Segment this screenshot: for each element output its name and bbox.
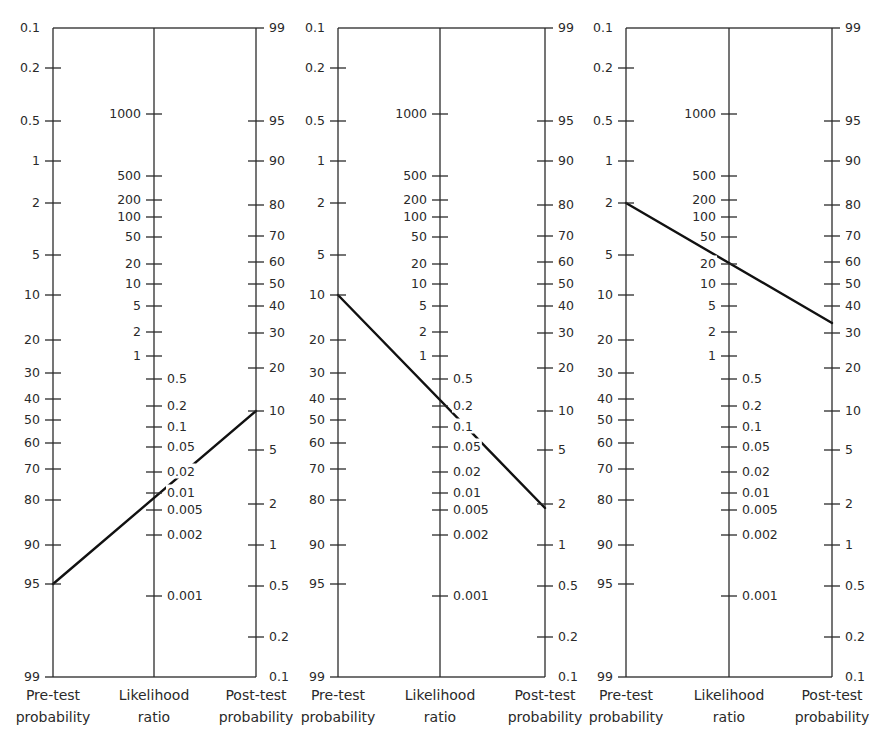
lr-tick-label: 0.2 <box>453 398 473 413</box>
pre-test-tick-label: 70 <box>597 461 613 476</box>
lr-tick-label: 0.001 <box>167 588 203 603</box>
pre-test-tick-label: 5 <box>605 247 613 262</box>
post-test-tick-label: 2 <box>558 496 566 511</box>
post-test-tick-label: 70 <box>845 228 861 243</box>
post-test-tick-label: 50 <box>558 276 574 291</box>
post-test-tick-label: 2 <box>269 496 277 511</box>
pre-test-tick-label: 2 <box>32 195 40 210</box>
likelihood-ratio-title-line1: Likelihood <box>405 687 476 703</box>
lr-tick-label: 50 <box>411 229 427 244</box>
pre-test-tick-label: 50 <box>309 412 325 427</box>
post-test-tick-label: 1 <box>845 537 853 552</box>
pre-test-tick-label: 1 <box>32 153 40 168</box>
post-test-tick-label: 1 <box>558 537 566 552</box>
lr-tick-label: 1 <box>708 348 716 363</box>
lr-tick-label: 0.005 <box>453 502 489 517</box>
pre-test-tick-label: 99 <box>24 669 40 684</box>
post-test-tick-label: 0.5 <box>558 578 578 593</box>
post-test-tick-label: 90 <box>845 153 861 168</box>
lr-tick-label: 0.002 <box>453 527 489 542</box>
likelihood-ratio-title-line1: Likelihood <box>694 687 765 703</box>
pre-test-tick-label: 99 <box>309 669 325 684</box>
post-test-tick-label: 5 <box>269 442 277 457</box>
pre-test-tick-label: 10 <box>24 287 40 302</box>
lr-tick-label: 5 <box>708 298 716 313</box>
post-test-tick-label: 0.2 <box>269 629 289 644</box>
pre-test-tick-label: 20 <box>597 332 613 347</box>
pre-test-tick-label: 0.1 <box>20 20 40 35</box>
post-test-tick-label: 40 <box>845 298 861 313</box>
post-test-tick-label: 0.1 <box>269 669 289 684</box>
pre-test-tick-label: 20 <box>24 332 40 347</box>
lr-tick-label: 0.01 <box>453 485 481 500</box>
lr-tick-label: 0.02 <box>742 464 770 479</box>
pre-test-tick-label: 40 <box>597 391 613 406</box>
post-test-tick-label: 40 <box>558 298 574 313</box>
pre-test-title-line2: probability <box>589 709 664 725</box>
post-test-tick-label: 0.2 <box>558 629 578 644</box>
pre-test-title-line1: Pre-test <box>311 687 366 703</box>
pre-test-title-line2: probability <box>16 709 91 725</box>
lr-tick-label: 20 <box>411 256 427 271</box>
post-test-tick-label: 60 <box>269 254 285 269</box>
post-test-tick-label: 95 <box>558 113 574 128</box>
post-test-tick-label: 20 <box>845 360 861 375</box>
post-test-tick-label: 60 <box>845 254 861 269</box>
pre-test-tick-label: 40 <box>24 391 40 406</box>
post-test-title-line2: probability <box>508 709 583 725</box>
pre-test-tick-label: 2 <box>317 195 325 210</box>
lr-tick-label: 0.01 <box>742 485 770 500</box>
lr-tick-label: 20 <box>700 256 716 271</box>
pre-test-tick-label: 1 <box>317 153 325 168</box>
post-test-tick-label: 50 <box>269 276 285 291</box>
pre-test-tick-label: 90 <box>309 537 325 552</box>
pre-test-tick-label: 10 <box>309 287 325 302</box>
lr-tick-label: 500 <box>117 168 141 183</box>
pre-test-tick-label: 99 <box>597 669 613 684</box>
post-test-tick-label: 80 <box>845 197 861 212</box>
pre-test-tick-label: 90 <box>597 537 613 552</box>
lr-tick-label: 1000 <box>395 106 427 121</box>
lr-tick-label: 0.02 <box>167 464 195 479</box>
lr-tick-label: 2 <box>419 324 427 339</box>
result-line <box>338 295 545 508</box>
pre-test-tick-label: 2 <box>605 195 613 210</box>
lr-tick-label: 0.001 <box>453 588 489 603</box>
pre-test-title-line1: Pre-test <box>599 687 654 703</box>
pre-test-tick-label: 80 <box>24 492 40 507</box>
lr-tick-label: 0.05 <box>742 439 770 454</box>
post-test-tick-label: 5 <box>845 442 853 457</box>
nomogram-svg: 0.10.20.51251020304050607080909599100050… <box>0 0 887 753</box>
post-test-tick-label: 60 <box>558 254 574 269</box>
post-test-tick-label: 70 <box>558 228 574 243</box>
lr-tick-label: 10 <box>411 276 427 291</box>
pre-test-tick-label: 95 <box>309 576 325 591</box>
pre-test-tick-label: 70 <box>309 461 325 476</box>
lr-tick-label: 200 <box>117 192 141 207</box>
pre-test-title-line1: Pre-test <box>26 687 81 703</box>
lr-tick-label: 1000 <box>109 106 141 121</box>
fagan-nomogram-figure: 0.10.20.51251020304050607080909599100050… <box>0 0 887 753</box>
post-test-tick-label: 95 <box>269 113 285 128</box>
pre-test-tick-label: 60 <box>24 435 40 450</box>
post-test-tick-label: 0.5 <box>845 578 865 593</box>
likelihood-ratio-title-line1: Likelihood <box>119 687 190 703</box>
nomogram-panel-1: 0.10.20.51251020304050607080909599100050… <box>16 20 294 726</box>
pre-test-tick-label: 0.2 <box>305 60 325 75</box>
lr-tick-label: 0.5 <box>453 371 473 386</box>
lr-tick-label: 0.001 <box>742 588 778 603</box>
pre-test-tick-label: 20 <box>309 332 325 347</box>
pre-test-tick-label: 30 <box>597 365 613 380</box>
lr-tick-label: 2 <box>133 324 141 339</box>
lr-tick-label: 0.05 <box>167 439 195 454</box>
likelihood-ratio-title-line2: ratio <box>424 709 456 725</box>
lr-tick-label: 50 <box>125 229 141 244</box>
pre-test-tick-label: 90 <box>24 537 40 552</box>
pre-test-tick-label: 1 <box>605 153 613 168</box>
lr-tick-label: 0.05 <box>453 439 481 454</box>
post-test-title-line1: Post-test <box>801 687 863 703</box>
lr-tick-label: 500 <box>403 168 427 183</box>
pre-test-tick-label: 50 <box>24 412 40 427</box>
lr-tick-label: 20 <box>125 256 141 271</box>
lr-tick-label: 50 <box>700 229 716 244</box>
